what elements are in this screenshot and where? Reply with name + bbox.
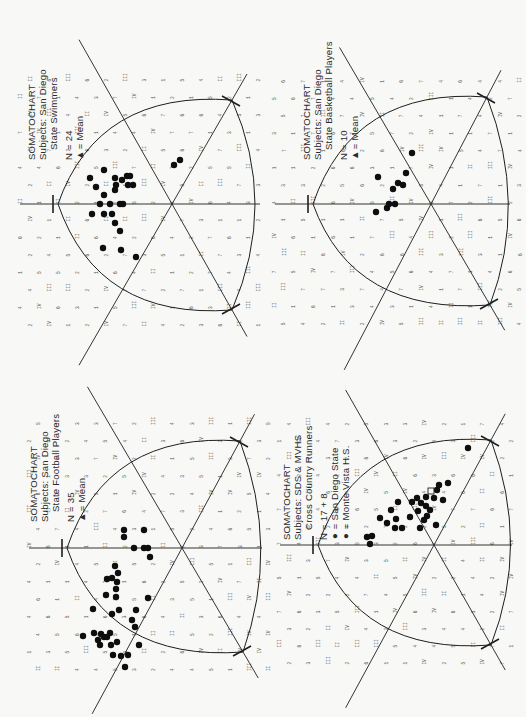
grid-label: 6: [142, 114, 147, 117]
grid-label: 5: [113, 306, 118, 309]
subjects-line-2: State Basketball Players: [323, 41, 334, 160]
grid-label: III: [419, 248, 424, 256]
boundary-curve-right: [232, 100, 255, 310]
grid-label: III: [94, 522, 99, 530]
grid-label: 3: [199, 219, 204, 222]
grid-label: III: [403, 622, 408, 630]
grid-label: 5: [247, 492, 252, 495]
grid-label: III: [468, 230, 473, 238]
grid-label: 5: [272, 97, 277, 100]
grid-label: 1: [161, 79, 166, 82]
grid-label: III: [287, 554, 292, 562]
grid-label: 7: [272, 270, 277, 273]
data-point: [114, 579, 120, 585]
data-point: [112, 220, 118, 226]
grid-label: III: [419, 144, 424, 152]
grid-label: III: [209, 417, 214, 425]
grid-label: IV: [508, 233, 513, 239]
grid-label: II: [85, 111, 90, 117]
grid-label: 2: [28, 254, 33, 257]
grid-label: 7: [488, 132, 493, 135]
grid-label: 4: [370, 270, 375, 273]
grid-label: 3: [403, 422, 408, 425]
grid-label: 1: [403, 662, 408, 665]
scanned-page: II6III62III3154IIIII2II71437IV121521IVII…: [0, 0, 526, 717]
grid-label: 7: [123, 324, 128, 327]
grid-label: II: [480, 556, 485, 562]
grid-label: III: [132, 301, 137, 309]
grid-label: II: [403, 556, 408, 562]
triangle-icon: ▲: [74, 152, 85, 160]
grid-label: 1: [246, 236, 251, 239]
grid-label: 7: [400, 114, 405, 117]
grid-label: 1: [66, 324, 71, 327]
grid-label: II: [266, 665, 271, 671]
grid-label: IV: [151, 303, 156, 309]
grid-label: IV: [403, 488, 408, 494]
grid-label: III: [142, 213, 147, 221]
grid-label: 2: [409, 132, 414, 135]
grid-label: IV: [266, 630, 271, 636]
dot-icon: ●: [329, 532, 340, 540]
data-point: [423, 494, 429, 500]
grid-label: 2: [28, 184, 33, 187]
grid-label: 7: [478, 184, 483, 187]
grid-label: 1: [439, 288, 444, 291]
data-point: [112, 187, 118, 193]
grid-label: 5: [208, 166, 213, 169]
grid-label: IV: [257, 472, 262, 478]
grid-label: 3: [161, 440, 166, 443]
grid-label: 7: [161, 114, 166, 117]
grid-label: 5: [66, 254, 71, 257]
grid-label: III: [209, 452, 214, 460]
grid-label: 4: [161, 324, 166, 327]
grid-label: IV: [345, 625, 350, 631]
data-point: [103, 592, 109, 598]
grid-label: 6: [364, 662, 369, 665]
grid-label: II: [341, 320, 346, 326]
grid-label: 6: [180, 114, 185, 117]
grid-label: 3: [518, 184, 523, 187]
grid-label: 2: [380, 184, 385, 187]
grid-label: 3: [132, 527, 137, 530]
grid-label: 2: [104, 254, 109, 257]
grid-label: 4: [471, 576, 476, 579]
grid-label: III: [218, 178, 223, 186]
grid-label: 3: [350, 305, 355, 308]
grid-label: 6: [500, 491, 505, 494]
grid-label: II: [301, 250, 306, 256]
grid-label: 2: [461, 525, 466, 528]
grid-label: 6: [403, 457, 408, 460]
grid-label: IV: [28, 216, 33, 222]
grid-label: 4: [132, 131, 137, 134]
grid-label: 1: [384, 662, 389, 665]
grid-label: 3: [306, 662, 311, 665]
data-point: [393, 516, 399, 522]
grid-label: 6: [350, 166, 355, 169]
grid-label: 7: [247, 457, 252, 460]
apex-label-endomorph: [481, 436, 499, 446]
grid-label: 2: [266, 457, 271, 460]
data-point: [436, 482, 442, 488]
grid-label: 6: [180, 440, 185, 443]
grid-label: 4: [478, 80, 483, 83]
grid-label: 6: [36, 598, 41, 601]
grid-label: 3: [301, 184, 306, 187]
grid-label: III: [277, 639, 282, 647]
grid-label: 2: [306, 627, 311, 630]
grid-label: 1: [228, 563, 233, 566]
grid-label: 5: [190, 633, 195, 636]
grid-label: 3: [257, 440, 262, 443]
grid-label: 4: [461, 559, 466, 562]
data-point: [375, 174, 381, 180]
data-point: [112, 175, 118, 181]
grid-label: 5: [190, 598, 195, 601]
chart-title: SOMATOCHART: [28, 414, 39, 522]
grid-label: 5: [103, 651, 108, 654]
data-point: [91, 630, 97, 636]
legend-label: = Mean: [76, 478, 87, 511]
grid-label: 7: [238, 580, 243, 583]
grid-label: 7: [364, 593, 369, 596]
grid-label: IV: [509, 573, 514, 579]
grid-label: 4: [419, 114, 424, 117]
